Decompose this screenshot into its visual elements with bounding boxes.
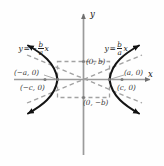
eq-right-fraction: b a <box>117 41 123 57</box>
eq-left-sign: − <box>30 44 37 53</box>
eq-right-equals: = <box>109 44 116 53</box>
co-vertex-top-dot <box>82 60 85 63</box>
vertex-right-label: (a, 0) <box>124 69 143 76</box>
eq-right-numerator: b <box>117 41 123 49</box>
hyperbola-figure: y = − b a x y = b a x (−a, 0) (−c, 0) (a… <box>0 0 164 166</box>
eq-right-variable: x <box>123 44 128 53</box>
vertex-left-dot <box>56 78 59 81</box>
eq-right-denominator: a <box>117 49 122 57</box>
eq-left-denominator: a <box>38 49 43 57</box>
asymptote-negative-equation-label: y = − b a x <box>18 41 49 57</box>
focus-right-dot <box>121 78 124 81</box>
co-vertex-bottom-label: (0, −b) <box>83 99 108 106</box>
co-vertex-top-label: (0, b) <box>86 58 105 65</box>
focus-left-dot <box>44 78 47 81</box>
focus-left-label: (−c, 0) <box>20 84 45 91</box>
eq-left-variable: x <box>44 44 49 53</box>
x-axis-label: x <box>148 70 153 79</box>
eq-left-equals: = <box>23 44 30 53</box>
y-axis-label: y <box>90 10 95 19</box>
focus-right-label: (c, 0) <box>117 84 136 91</box>
eq-left-fraction: b a <box>38 41 44 57</box>
vertex-right-dot <box>108 78 111 81</box>
asymptote-positive-equation-label: y = b a x <box>104 41 128 57</box>
vertex-left-label: (−a, 0) <box>14 69 39 76</box>
eq-left-numerator: b <box>38 41 44 49</box>
